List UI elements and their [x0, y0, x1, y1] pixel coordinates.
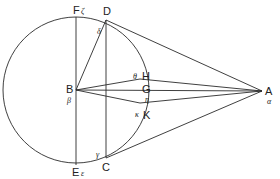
- greek-G: η: [145, 95, 149, 104]
- greek-E: ε: [81, 169, 85, 178]
- tangent-AD: [106, 20, 262, 91]
- geometry-diagram: F ζ D δ B β θ H G η κ K A α E ε γ C: [0, 0, 280, 179]
- line-BH: [76, 79, 140, 90]
- greek-C: γ: [96, 150, 100, 159]
- line-HA: [140, 79, 262, 91]
- label-A: A: [265, 85, 273, 97]
- label-F: F: [73, 4, 80, 16]
- label-D: D: [103, 5, 111, 17]
- label-E: E: [72, 166, 79, 178]
- line-BK: [76, 90, 140, 103]
- greek-A: α: [267, 97, 272, 106]
- greek-H: θ: [133, 72, 137, 81]
- label-B: B: [66, 83, 73, 95]
- greek-K: κ: [135, 110, 139, 119]
- label-H: H: [142, 70, 150, 82]
- label-K: K: [143, 109, 151, 121]
- label-G: G: [142, 83, 151, 95]
- greek-B: β: [66, 96, 71, 105]
- line-BA: [76, 90, 262, 91]
- greek-F: ζ: [81, 7, 85, 16]
- label-C: C: [102, 161, 110, 173]
- greek-D: δ: [97, 27, 101, 36]
- line-KA: [140, 91, 262, 103]
- radius-BD: [76, 20, 106, 90]
